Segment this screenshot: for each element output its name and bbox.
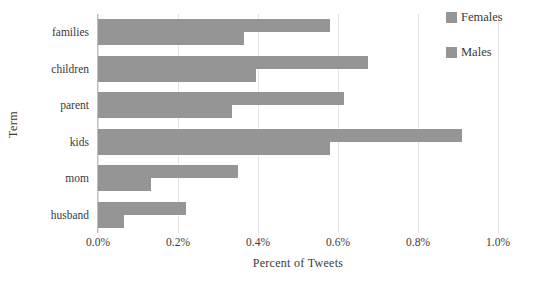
bar-families-males [98,32,244,45]
x-axis-title: Percent of Tweets [98,256,498,271]
y-tick-label-mom: mom [24,160,94,197]
x-tick-label-0.6%: 0.6% [326,236,350,248]
bar-kids-males [98,142,330,155]
x-tick-label-0.8%: 0.8% [406,236,430,248]
bar-group-mom [98,160,498,197]
bar-children-females [98,56,368,69]
chart-legend: Females Males [446,10,554,80]
legend-label-males: Males [461,45,492,60]
legend-swatch-females-icon [446,12,457,23]
bar-mom-males [98,178,151,191]
bar-groups [98,14,498,233]
bar-children-males [98,69,256,82]
x-tick-label-0.4%: 0.4% [246,236,270,248]
x-tick-label-1.0%: 1.0% [486,236,510,248]
bar-families-females [98,19,330,32]
bar-group-kids [98,124,498,161]
x-axis-title-text: Percent of Tweets [253,256,344,270]
bar-kids-females [98,129,462,142]
plot-area [98,14,498,233]
bar-husband-males [98,215,124,228]
bar-chart: Term families children parent kids mom h… [0,0,558,290]
legend-entry-females: Females [446,10,554,25]
legend-label-females: Females [461,10,503,25]
bar-group-children [98,51,498,88]
bar-parent-females [98,92,344,105]
x-tick-label-0.2%: 0.2% [166,236,190,248]
x-axis-tick-labels: 0.0%0.2%0.4%0.6%0.8%1.0% [98,236,498,254]
y-axis-tick-labels: families children parent kids mom husban… [24,14,94,233]
y-tick-label-kids: kids [24,124,94,161]
legend-entry-males: Males [446,45,554,60]
bar-parent-males [98,105,232,118]
y-axis-title: Term [2,0,24,248]
y-tick-label-husband: husband [24,197,94,234]
bar-group-families [98,14,498,51]
x-tick-label-0.0%: 0.0% [86,236,110,248]
y-tick-label-families: families [24,14,94,51]
bar-husband-females [98,202,186,215]
y-tick-label-parent: parent [24,87,94,124]
bar-group-husband [98,197,498,234]
legend-swatch-males-icon [446,47,457,58]
bar-group-parent [98,87,498,124]
bar-mom-females [98,165,238,178]
y-tick-label-children: children [24,51,94,88]
y-axis-title-text: Term [6,111,21,138]
